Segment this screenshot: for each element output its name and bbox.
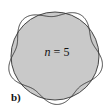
n-value: = 5 xyxy=(51,45,70,59)
panel-label: b) xyxy=(11,91,21,103)
quantum-number-label: n = 5 xyxy=(37,45,77,60)
